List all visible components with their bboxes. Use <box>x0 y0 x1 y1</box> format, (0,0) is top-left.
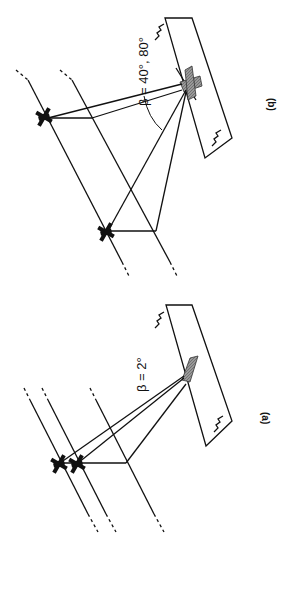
flight-track-2 <box>48 400 106 514</box>
figure-canvas: β = 40°, 80° (b) β = 2° (a) <box>0 0 281 603</box>
panel-b <box>16 18 232 278</box>
panel-a <box>24 305 232 532</box>
angle-label-b: β = 40°, 80° <box>136 37 151 106</box>
angle-label-a: β = 2° <box>134 357 149 392</box>
caption-a: (a) <box>260 412 271 424</box>
target-strip <box>165 18 232 158</box>
target-strip <box>166 305 232 446</box>
flight-track-2 <box>72 80 170 262</box>
aircraft-icon <box>93 219 119 245</box>
caption-b: (b) <box>266 98 277 111</box>
